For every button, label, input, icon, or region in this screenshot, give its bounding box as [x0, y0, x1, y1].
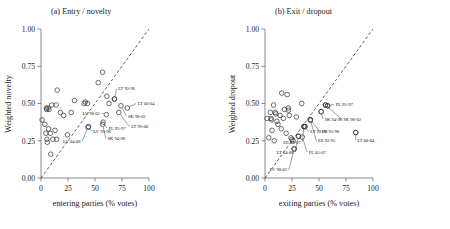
point-label: LT 96-00	[131, 124, 149, 129]
data-point	[275, 119, 280, 124]
panel-title-b: (b) Exit / dropout	[275, 7, 333, 16]
y-tick-label-a-2: 0.50	[22, 99, 35, 108]
y-tick-label-a-0: 0.00	[22, 174, 35, 183]
figure-canvas: (a) Entry / novelty02550751000.000.250.5…	[0, 0, 450, 229]
data-point	[279, 127, 284, 132]
point-label: PL 93-97	[336, 102, 354, 107]
data-point	[294, 115, 299, 120]
data-point	[271, 103, 276, 108]
labeled-data-point	[119, 103, 124, 108]
labeled-data-point	[319, 109, 324, 114]
point-label: LT 00-04	[357, 138, 375, 143]
data-point	[48, 131, 53, 136]
data-point	[53, 128, 58, 133]
data-point	[48, 152, 53, 157]
point-label: SK 94-98	[107, 136, 125, 141]
labeled-data-point	[116, 110, 121, 115]
x-tick-label-a-2: 50	[91, 184, 99, 193]
data-point	[268, 110, 273, 115]
x-tick-label-a-4: 100	[143, 184, 155, 193]
x-tick-label-b-3: 75	[342, 184, 350, 193]
data-point	[55, 88, 60, 93]
data-point	[105, 94, 110, 99]
point-label: LV 98-02	[82, 111, 100, 116]
data-point	[287, 113, 292, 118]
y-tick-label-b-0: 0.00	[246, 174, 259, 183]
point-label: SK 98-02	[128, 114, 146, 119]
data-point	[72, 98, 77, 103]
x-tick-label-b-0: 0	[263, 184, 267, 193]
data-point	[96, 80, 101, 85]
data-point	[299, 101, 304, 106]
y-tick-label-a-3: 0.75	[22, 62, 35, 71]
labeled-data-point	[353, 130, 358, 135]
leader-line	[330, 104, 334, 105]
point-label: LT 00-04	[138, 101, 156, 106]
point-label: EE 92-95	[318, 138, 336, 143]
point-label: LT 92-96	[310, 129, 328, 134]
leader-line	[306, 129, 308, 132]
data-point	[46, 127, 51, 132]
leader-line	[322, 114, 323, 119]
panel-a: (a) Entry / novelty02550751000.000.250.5…	[4, 7, 155, 208]
data-point	[69, 110, 74, 115]
x-axis-title-b: exiting parties (% votes)	[279, 199, 360, 208]
data-point	[40, 118, 45, 123]
x-tick-label-b-1: 25	[288, 184, 296, 193]
point-label: PL 05-07	[309, 150, 327, 155]
leader-line	[101, 113, 103, 114]
labeled-data-point	[112, 97, 117, 102]
point-label: LV 95-98	[93, 129, 111, 134]
x-axis-title-a: entering parties (% votes)	[53, 199, 138, 208]
data-point	[285, 92, 290, 97]
y-tick-label-b-3: 0.75	[246, 62, 259, 71]
data-point	[279, 91, 284, 96]
y-tick-label-b-1: 0.25	[246, 137, 259, 146]
point-label: SK 98-02	[343, 117, 361, 122]
data-point	[100, 70, 105, 75]
data-point	[54, 103, 59, 108]
point-label: LT 04-08	[277, 150, 295, 155]
data-point	[272, 138, 277, 143]
y-axis-title-b: Weighted dropout	[228, 74, 237, 133]
data-point	[281, 116, 286, 121]
point-label: EE 03-07	[283, 140, 301, 145]
data-point	[61, 113, 66, 118]
panel-b: (b) Exit / dropout02550751000.000.250.50…	[228, 7, 379, 208]
leader-line	[115, 89, 117, 97]
point-label: LT 92-96	[118, 86, 136, 91]
point-label: LV 98-02	[270, 167, 288, 172]
leader-line	[303, 140, 307, 152]
data-point	[270, 128, 275, 133]
x-tick-label-a-1: 25	[64, 184, 72, 193]
reference-diagonal-b	[265, 29, 373, 178]
leader-line	[130, 104, 136, 107]
data-point	[276, 122, 281, 127]
x-tick-label-b-2: 50	[315, 184, 323, 193]
labeled-data-point	[308, 118, 313, 123]
data-point	[266, 135, 271, 140]
y-tick-label-b-4: 1.00	[246, 25, 259, 34]
figure-container: (a) Entry / novelty02550751000.000.250.5…	[0, 0, 450, 229]
panel-title-a: (a) Entry / novelty	[51, 7, 112, 16]
data-point	[65, 132, 70, 137]
x-tick-label-b-4: 100	[367, 184, 379, 193]
labeled-data-point	[104, 112, 109, 117]
data-point	[107, 101, 112, 106]
y-tick-label-b-2: 0.50	[246, 99, 259, 108]
data-point	[50, 103, 55, 108]
labeled-data-point	[125, 106, 130, 111]
y-tick-label-a-1: 0.25	[22, 137, 35, 146]
reference-diagonal-a	[41, 29, 149, 178]
data-point	[45, 140, 50, 145]
data-point	[42, 122, 47, 127]
x-tick-label-a-3: 75	[118, 184, 126, 193]
leader-line	[82, 130, 87, 142]
data-point	[44, 131, 49, 136]
y-axis-title-a: Weighted novelty	[4, 74, 13, 133]
point-label: PL 93-97	[108, 126, 126, 131]
x-tick-label-a-0: 0	[39, 184, 43, 193]
leader-line	[90, 129, 92, 131]
data-point	[284, 131, 289, 136]
point-label: LV 04-08	[63, 139, 81, 144]
